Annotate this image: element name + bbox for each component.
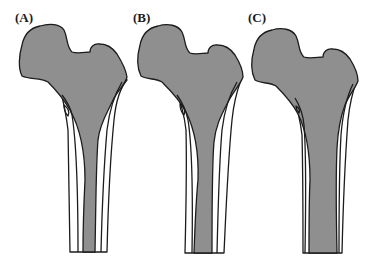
femur-panel-c [0,0,369,268]
femur-comparison-figure: (A) (B) (C) [0,0,369,268]
